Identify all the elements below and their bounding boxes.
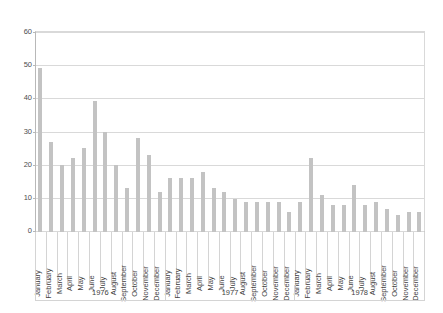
bar[interactable] — [277, 202, 281, 232]
bar[interactable] — [363, 205, 367, 232]
bar-slot — [403, 31, 414, 232]
bar-slot — [176, 31, 187, 232]
bar[interactable] — [385, 209, 389, 232]
year-label: 1976 — [36, 285, 166, 300]
bar[interactable] — [93, 101, 97, 232]
bar[interactable] — [342, 205, 346, 232]
bar-slot — [230, 31, 241, 232]
y-axis-tick-label: 60 — [24, 28, 32, 36]
bar-slot — [306, 31, 317, 232]
bar[interactable] — [255, 202, 259, 232]
bar-slot — [111, 31, 122, 232]
bar-slot — [338, 31, 349, 232]
y-axis-tick-label: 40 — [24, 95, 32, 103]
bar-slot — [241, 31, 252, 232]
bar-slot — [284, 31, 295, 232]
bar[interactable] — [201, 172, 205, 232]
bar[interactable] — [38, 68, 42, 232]
year-label: 1978 — [295, 285, 425, 300]
y-axis-tick-label: 20 — [24, 161, 32, 169]
bar[interactable] — [320, 195, 324, 232]
y-axis-tick-label: 30 — [24, 128, 32, 136]
x-axis-month-labels: JanuaryFebruaryMarchAprilMayJuneJulyAugu… — [35, 232, 425, 285]
bar-slot — [327, 31, 338, 232]
bar-slot — [197, 31, 208, 232]
bar-slot — [143, 31, 154, 232]
y-axis-tick-label: 0 — [28, 227, 32, 235]
bar-slot — [132, 31, 143, 232]
bar-slot — [154, 31, 165, 232]
bar-slot — [78, 31, 89, 232]
bar[interactable] — [309, 158, 313, 232]
bar-slot — [414, 31, 425, 232]
bar[interactable] — [374, 202, 378, 232]
bar[interactable] — [212, 188, 216, 232]
bar-slot — [208, 31, 219, 232]
bar[interactable] — [136, 138, 140, 232]
bar-slot — [187, 31, 198, 232]
bar[interactable] — [103, 132, 107, 233]
bar[interactable] — [287, 212, 291, 232]
bar[interactable] — [71, 158, 75, 232]
bar[interactable] — [179, 178, 183, 232]
bar-slot — [392, 31, 403, 232]
bar-slot — [295, 31, 306, 232]
bar-slot — [252, 31, 263, 232]
bars-container — [35, 31, 425, 232]
bar[interactable] — [147, 155, 151, 232]
bar-slot — [262, 31, 273, 232]
bar[interactable] — [168, 178, 172, 232]
bar[interactable] — [190, 178, 194, 232]
bar[interactable] — [352, 185, 356, 232]
year-label: 1977 — [166, 285, 296, 300]
bar-slot — [360, 31, 371, 232]
bar-slot — [57, 31, 68, 232]
bar[interactable] — [244, 202, 248, 232]
bar-slot — [219, 31, 230, 232]
bar[interactable] — [222, 192, 226, 232]
y-axis-tick-label: 10 — [24, 194, 32, 202]
bar[interactable] — [125, 188, 129, 232]
bar-slot — [89, 31, 100, 232]
bar-slot — [100, 31, 111, 232]
bar[interactable] — [331, 205, 335, 232]
bar[interactable] — [82, 148, 86, 232]
bar-slot — [371, 31, 382, 232]
y-axis-tick-label: 50 — [24, 61, 32, 69]
bar-chart: 0102030405060 JanuaryFebruaryMarchAprilM… — [0, 0, 443, 313]
bar[interactable] — [158, 192, 162, 232]
bar-slot — [165, 31, 176, 232]
bar-slot — [317, 31, 328, 232]
bar-slot — [46, 31, 57, 232]
bar-slot — [67, 31, 78, 232]
bar-slot — [382, 31, 393, 232]
month-label-cell: December — [414, 232, 425, 285]
bar-slot — [273, 31, 284, 232]
bar[interactable] — [396, 215, 400, 232]
bar[interactable] — [114, 165, 118, 232]
bar[interactable] — [417, 212, 421, 232]
bar[interactable] — [49, 142, 53, 232]
bar[interactable] — [233, 199, 237, 232]
bar-slot — [349, 31, 360, 232]
bar-slot — [122, 31, 133, 232]
bar-slot — [35, 31, 46, 232]
bar[interactable] — [298, 202, 302, 232]
bar[interactable] — [266, 202, 270, 232]
x-axis-year-labels: 197619771978 — [35, 285, 425, 301]
bar[interactable] — [407, 212, 411, 232]
bar[interactable] — [60, 165, 64, 232]
